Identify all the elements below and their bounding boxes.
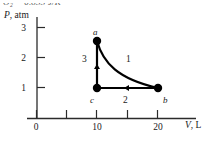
process-3-arrow [94,64,100,69]
data-point-a [93,37,101,45]
data-point-b [154,84,162,92]
pv-diagram-figure: O₂ = 0.833 J/K P, atm V, L 3 2 1 0 10 20… [0,0,219,144]
process-1-isotherm-path [97,41,158,88]
data-point-c [93,84,101,92]
pv-diagram-canvas [0,0,219,144]
process-2-arrow [124,85,129,91]
